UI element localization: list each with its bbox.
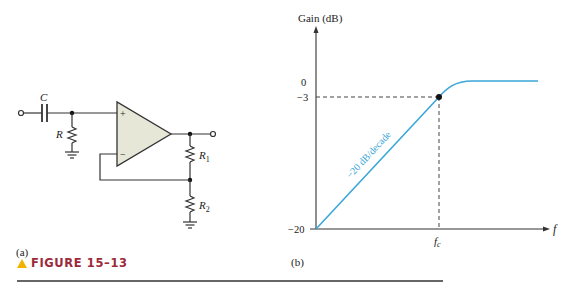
figure-canvas: C R + − R1 R2 (a) Gain (dB) 0 −3 −20 f f… [0, 0, 571, 284]
ground-icon [65, 152, 79, 158]
figure-number: FIGURE 15–13 [31, 256, 128, 270]
panel-b-label: (b) [291, 256, 304, 269]
resistor-icon [68, 127, 76, 143]
ground-icon [183, 222, 197, 228]
y-tick-minus20: −20 [288, 224, 304, 235]
x-axis-label: f [553, 222, 558, 236]
circuit-diagram [19, 102, 216, 228]
y-axis-arrow-icon [314, 26, 319, 33]
feedback-wire [100, 154, 190, 180]
caption-rule [17, 280, 443, 282]
cutoff-point-dot [436, 94, 442, 100]
bode-plot [310, 26, 550, 232]
input-terminal-icon [19, 111, 24, 116]
opamp-minus-label: − [120, 149, 126, 160]
resistor-label: R [55, 128, 63, 140]
caption-triangle-icon [17, 259, 27, 268]
output-terminal-icon [211, 132, 216, 137]
resistor1-label: R1 [198, 149, 210, 164]
y-tick-minus3: −3 [297, 92, 308, 103]
x-tick-fc: fc [434, 235, 441, 249]
y-tick-0: 0 [301, 77, 306, 88]
resistor2-icon [186, 196, 194, 212]
capacitor-icon [42, 104, 47, 122]
resistor1-icon [186, 146, 194, 162]
resistor2-label: R2 [198, 199, 210, 214]
figure-caption: FIGURE 15–13 [17, 256, 128, 270]
response-curve [316, 81, 538, 229]
y-axis-label: Gain (dB) [298, 12, 343, 25]
capacitor-label: C [40, 91, 48, 103]
opamp-plus-label: + [120, 108, 126, 119]
x-axis-arrow-icon [543, 227, 550, 232]
